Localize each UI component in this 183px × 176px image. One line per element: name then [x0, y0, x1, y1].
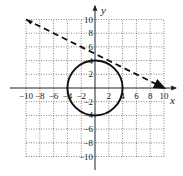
svg-text:−8: −8 — [83, 138, 93, 148]
svg-text:8: 8 — [89, 28, 94, 38]
svg-text:−6: −6 — [83, 124, 93, 134]
svg-text:−8: −8 — [35, 91, 45, 101]
svg-text:8: 8 — [148, 91, 153, 101]
svg-text:−2: −2 — [83, 97, 93, 107]
y-axis-label: y — [100, 4, 106, 16]
svg-text:10: 10 — [84, 15, 94, 25]
svg-text:2: 2 — [89, 69, 94, 79]
svg-text:−10: −10 — [19, 91, 34, 101]
svg-text:10: 10 — [160, 91, 170, 101]
svg-text:−10: −10 — [79, 152, 94, 162]
svg-text:2: 2 — [107, 91, 112, 101]
x-axis-label: x — [169, 94, 175, 106]
svg-text:−6: −6 — [49, 91, 59, 101]
svg-text:6: 6 — [134, 91, 139, 101]
axes — [10, 6, 176, 170]
coordinate-plane: −10−8−6−4−2246810−10−8−6−4−2246810 x y — [0, 0, 183, 176]
